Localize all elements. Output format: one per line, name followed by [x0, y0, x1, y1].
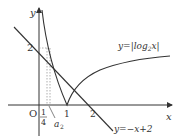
x-tick-1-label: 1	[64, 109, 70, 119]
a2-label: a	[54, 119, 59, 129]
line-label: y=−x+2	[113, 124, 153, 134]
x-tick-quarter-numerator: 1	[41, 108, 46, 117]
log-abs-curve	[42, 10, 170, 105]
a2-subscript: 2	[60, 123, 64, 130]
y-tick-2-label: 2	[27, 42, 33, 53]
function-graph-diagram: y x O 2 1 4 a 2 1 2 y=|log2x| y=−x+2	[0, 0, 180, 139]
y-axis-label: y	[29, 7, 36, 18]
x-axis-label: x	[166, 111, 172, 122]
log-curve-label: y=|log2x|	[117, 41, 160, 52]
x-tick-2-label: 2	[90, 109, 96, 119]
a2-pointer	[49, 106, 55, 118]
origin-label: O	[29, 108, 37, 119]
x-tick-quarter-denominator: 4	[41, 118, 46, 127]
